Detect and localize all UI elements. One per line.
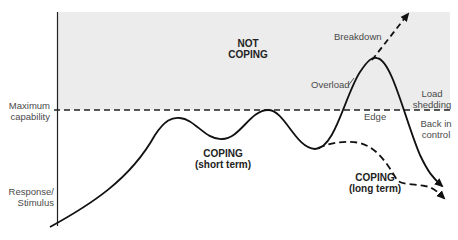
max-capability-label-line2: capability	[4, 111, 50, 122]
overload-label: Overload	[311, 79, 350, 90]
load-shedding-line1: Load	[408, 88, 456, 99]
not-coping-region	[58, 12, 450, 110]
max-capability-label-line1: Maximum	[4, 100, 50, 111]
max-capability-label: Maximum capability	[4, 100, 50, 122]
y-axis-label: Response/ Stimulus	[2, 186, 54, 208]
coping-long-line2: (long term)	[340, 183, 410, 194]
not-coping-line1: NOT	[218, 38, 278, 49]
breakdown-label: Breakdown	[334, 31, 382, 42]
coping-short-line2: (short term)	[188, 159, 258, 170]
edge-label: Edge	[364, 111, 386, 122]
back-in-control-line2: control	[416, 129, 456, 140]
coping-diagram	[0, 0, 458, 240]
y-axis-label-line2: Stimulus	[2, 197, 54, 208]
back-in-control-label: Back in control	[416, 118, 456, 140]
not-coping-label: NOT COPING	[218, 38, 278, 60]
coping-long-term-label: COPING (long term)	[340, 172, 410, 194]
not-coping-line2: COPING	[218, 49, 278, 60]
coping-long-line1: COPING	[340, 172, 410, 183]
back-in-control-line1: Back in	[416, 118, 456, 129]
load-shedding-line2: shedding	[408, 99, 456, 110]
load-shedding-label: Load shedding	[408, 88, 456, 110]
y-axis-label-line1: Response/	[2, 186, 54, 197]
coping-short-line1: COPING	[188, 148, 258, 159]
coping-short-term-label: COPING (short term)	[188, 148, 258, 170]
